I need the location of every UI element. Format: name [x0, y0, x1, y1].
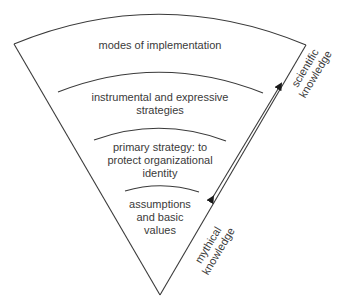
- layer-3-line-3: identity: [95, 167, 225, 180]
- layer-2-line-1: instrumental and expressive: [80, 91, 240, 104]
- layer-3-line-1: primary strategy: to: [95, 141, 225, 154]
- layer-1-label: modes of implementation: [70, 39, 250, 52]
- arc-4: [125, 186, 199, 192]
- layer-3-line-2: protect organizational: [95, 154, 225, 167]
- layer-3-label: primary strategy: to protect organizatio…: [95, 141, 225, 180]
- layer-4-label: assumptions and basic values: [122, 198, 198, 237]
- layer-4-line-2: and basic: [122, 211, 198, 224]
- arc-2: [58, 72, 263, 93]
- layer-4-line-1: assumptions: [122, 198, 198, 211]
- arc-3: [94, 128, 226, 141]
- layer-2-line-2: strategies: [80, 104, 240, 117]
- layer-2-label: instrumental and expressive strategies: [80, 91, 240, 117]
- layer-4-line-3: values: [122, 224, 198, 237]
